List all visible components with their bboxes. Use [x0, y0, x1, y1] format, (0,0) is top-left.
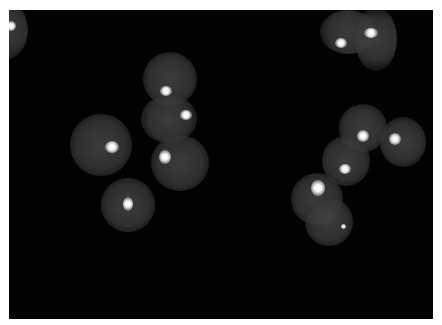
fluorescent-spot — [311, 180, 325, 196]
fluorescent-spot — [105, 141, 119, 153]
fluorescent-spot — [339, 164, 351, 174]
cell-nucleus — [9, 10, 28, 60]
cell-nucleus — [380, 117, 426, 167]
fluorescent-spot — [357, 130, 369, 142]
cell-nucleus — [151, 135, 209, 191]
cell-nucleus — [355, 10, 397, 71]
fluorescent-spot — [160, 86, 172, 96]
fluorescent-spot — [335, 38, 347, 48]
fluorescent-spot — [389, 133, 401, 145]
fluorescent-spot — [364, 28, 378, 38]
cell-nucleus — [305, 198, 353, 246]
fluorescent-spot — [123, 197, 133, 211]
fluorescent-spot — [180, 110, 192, 120]
micrograph-image — [9, 10, 433, 319]
fluorescent-spot — [341, 224, 346, 229]
fluorescent-spot — [159, 150, 171, 164]
cell-nucleus — [70, 114, 132, 176]
